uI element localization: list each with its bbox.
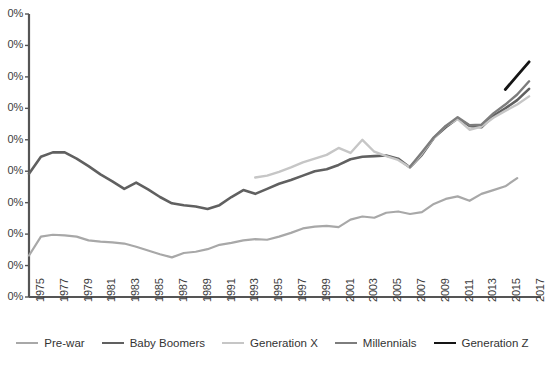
y-tick-label: 0% xyxy=(0,70,23,82)
x-tick-label: 2007 xyxy=(415,278,427,302)
chart-legend: Pre-warBaby BoomersGeneration XMillennia… xyxy=(0,330,545,356)
legend-item-millennials[interactable]: Millennials xyxy=(335,337,417,349)
y-tick-label: 0% xyxy=(0,196,23,208)
legend-item-generation-x[interactable]: Generation X xyxy=(222,337,318,349)
axis-lines xyxy=(29,14,541,297)
plot-area xyxy=(0,0,545,367)
x-tick-label: 1983 xyxy=(129,278,141,302)
y-tick-label: 0% xyxy=(0,290,23,302)
x-tick-label: 1993 xyxy=(248,278,260,302)
legend-item-pre-war[interactable]: Pre-war xyxy=(16,337,84,349)
legend-item-baby-boomers[interactable]: Baby Boomers xyxy=(102,337,205,349)
x-tick-label: 2011 xyxy=(463,279,475,302)
x-tick-label: 1997 xyxy=(296,278,308,302)
x-tick-label: 1981 xyxy=(105,278,117,302)
x-tick-label: 2003 xyxy=(367,278,379,302)
y-tick-label: 0% xyxy=(0,227,23,239)
line-chart: 0%0%0%0%0%0%0%0%0%0% 1975197719791981198… xyxy=(0,0,545,367)
x-tick-label: 2015 xyxy=(510,278,522,302)
legend-label: Pre-war xyxy=(44,337,84,349)
legend-label: Generation X xyxy=(250,337,318,349)
series-line-pre-war xyxy=(29,178,517,257)
x-tick-label: 2017 xyxy=(534,278,545,302)
y-tick-label: 0% xyxy=(0,259,23,271)
x-tick-label: 2013 xyxy=(486,278,498,302)
y-tick-label: 0% xyxy=(0,164,23,176)
y-tick-label: 0% xyxy=(0,101,23,113)
x-tick-label: 1979 xyxy=(82,278,94,302)
x-tick-label: 1977 xyxy=(58,278,70,302)
legend-swatch-icon xyxy=(335,342,357,344)
x-tick-label: 1991 xyxy=(225,278,237,302)
x-tick-label: 1987 xyxy=(177,278,189,302)
legend-swatch-icon xyxy=(102,342,124,344)
legend-item-generation-z[interactable]: Generation Z xyxy=(434,337,529,349)
x-tick-label: 1985 xyxy=(153,278,165,302)
legend-label: Baby Boomers xyxy=(130,337,205,349)
y-tick-label: 0% xyxy=(0,7,23,19)
legend-swatch-icon xyxy=(222,342,244,344)
y-tick-label: 0% xyxy=(0,133,23,145)
x-tick-label: 1989 xyxy=(201,278,213,302)
data-series-layer xyxy=(29,62,529,258)
x-tick-label: 2009 xyxy=(439,278,451,302)
x-tick-label: 1995 xyxy=(272,278,284,302)
legend-label: Generation Z xyxy=(462,337,529,349)
legend-label: Millennials xyxy=(363,337,417,349)
x-tick-label: 2005 xyxy=(391,278,403,302)
legend-swatch-icon xyxy=(434,342,456,344)
y-tick-label: 0% xyxy=(0,38,23,50)
series-line-millennials xyxy=(410,81,529,167)
x-tick-label: 1999 xyxy=(320,278,332,302)
legend-swatch-icon xyxy=(16,342,38,344)
x-tick-label: 2001 xyxy=(344,278,356,302)
series-line-baby-boomers xyxy=(29,89,529,209)
series-line-generation-x xyxy=(255,96,529,177)
x-tick-label: 1975 xyxy=(34,278,46,302)
